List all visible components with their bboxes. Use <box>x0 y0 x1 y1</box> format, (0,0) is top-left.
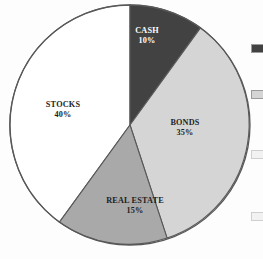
slice-label-real-estate-name: REAL ESTATE <box>92 196 178 206</box>
slice-label-bonds-name: BONDS <box>155 118 215 128</box>
slice-label-stocks-name: STOCKS <box>28 100 98 110</box>
slice-label-stocks: STOCKS 40% <box>28 100 98 119</box>
asset-allocation-pie-chart: CASH 10% BONDS 35% REAL ESTATE 15% STOCK… <box>0 0 263 259</box>
legend-item <box>251 44 263 53</box>
legend-swatch-icon <box>251 150 263 159</box>
legend-swatch-icon <box>251 90 263 99</box>
slice-label-real-estate-value: 15% <box>92 206 178 216</box>
slice-label-cash-value: 10% <box>117 36 177 46</box>
legend-item <box>251 212 263 221</box>
legend-item <box>251 150 263 159</box>
slice-label-bonds: BONDS 35% <box>155 118 215 137</box>
legend-cropped <box>243 0 263 259</box>
legend-swatch-icon <box>251 212 263 221</box>
pie-chart-screenshot: CASH 10% BONDS 35% REAL ESTATE 15% STOCK… <box>0 0 263 259</box>
slice-label-cash-name: CASH <box>117 26 177 36</box>
legend-swatch-icon <box>251 44 263 53</box>
slice-label-cash: CASH 10% <box>117 26 177 45</box>
slice-label-stocks-value: 40% <box>28 110 98 120</box>
slice-label-real-estate: REAL ESTATE 15% <box>92 196 178 215</box>
slice-label-bonds-value: 35% <box>155 128 215 138</box>
legend-item <box>251 90 263 99</box>
